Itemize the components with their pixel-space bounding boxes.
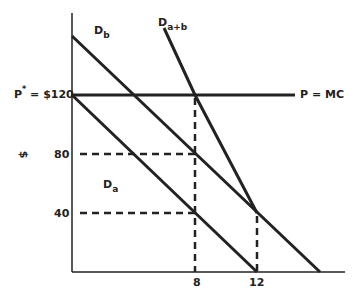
- x-tick-12: 12: [249, 276, 264, 289]
- label-da: Da: [103, 178, 118, 191]
- demand-a-line: [72, 95, 257, 272]
- label-pstar: P* = $120: [14, 88, 74, 101]
- y-tick-40: 40: [54, 207, 69, 220]
- label-db: Db: [94, 24, 110, 37]
- chart: Db Da+b Da P = MC P* = $120 $ 80 40 8 12: [0, 0, 355, 296]
- label-p-mc: P = MC: [300, 88, 344, 101]
- label-dab: Da+b: [158, 16, 187, 29]
- x-tick-8: 8: [193, 276, 201, 289]
- demand-ab-line: [164, 28, 257, 213]
- y-axis-label: $: [17, 151, 30, 159]
- y-tick-80: 80: [54, 148, 69, 161]
